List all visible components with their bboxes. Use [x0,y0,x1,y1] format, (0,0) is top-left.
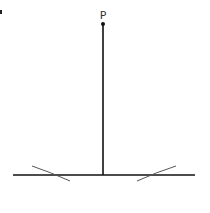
left-construction-arc [32,166,70,181]
point-p-dot [101,22,105,26]
point-p-label: P [100,9,107,22]
right-construction-arc [137,166,176,181]
perpendicular-construction-diagram: P [0,0,210,213]
corner-mark [0,10,2,14]
